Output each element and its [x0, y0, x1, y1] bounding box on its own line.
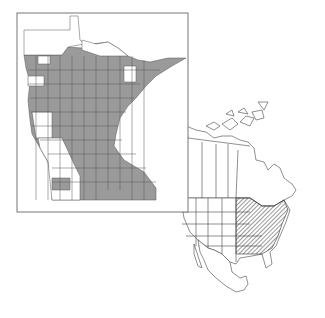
range-map-figure	[0, 0, 325, 318]
minnesota-county-map	[0, 0, 325, 318]
absent-s	[52, 178, 70, 190]
absent-east	[124, 66, 136, 82]
